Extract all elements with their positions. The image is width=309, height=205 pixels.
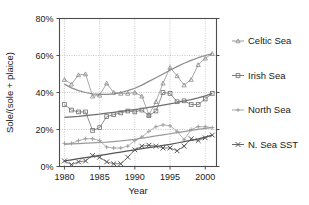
x-tick-label: 2000 (195, 172, 215, 182)
chart-canvas: 0%20%40%60%80%19801985199019952000YearSo… (0, 0, 309, 205)
y-tick-label: 20% (35, 125, 53, 135)
data-point-marker (69, 141, 73, 145)
y-tick-label: 0% (40, 162, 53, 172)
x-tick-label: 1980 (54, 172, 74, 182)
legend-plus-icon (236, 108, 240, 112)
legend-item-celtic-sea[interactable]: Celtic Sea (232, 35, 292, 46)
data-point-marker (76, 139, 80, 143)
legend-item-n-sea-sst[interactable]: N. Sea SST (232, 139, 298, 150)
data-line (64, 93, 212, 131)
y-axis-title: Sole/(sole + plaice) (4, 52, 15, 133)
legend-label: Celtic Sea (248, 35, 292, 46)
chart-figure: 0%20%40%60%80%19801985199019952000YearSo… (0, 0, 309, 205)
data-line (64, 54, 212, 115)
data-point-marker (196, 125, 200, 129)
legend-label: N. Sea SST (248, 139, 298, 150)
x-tick-labels: 19801985199019952000 (54, 172, 215, 182)
series-n-sea-sst (62, 133, 215, 167)
data-point-marker (112, 146, 116, 150)
data-point-marker (83, 137, 87, 141)
plot-frame (60, 19, 217, 167)
legend-item-irish-sea[interactable]: Irish Sea (232, 70, 286, 81)
data-point-marker (90, 137, 94, 141)
gridlines (60, 19, 217, 167)
x-tick-label: 1995 (160, 172, 180, 182)
y-tick-label: 60% (35, 51, 53, 61)
data-line (64, 125, 212, 148)
data-point-marker (182, 144, 187, 149)
data-point-marker (210, 126, 214, 130)
legend-label: North Sea (248, 104, 291, 115)
data-point-marker (119, 146, 123, 150)
data-point-marker (104, 159, 109, 164)
data-point-marker (125, 155, 130, 160)
x-tick-label: 1985 (90, 172, 110, 182)
legend-label: Irish Sea (248, 70, 286, 81)
y-tick-labels: 0%20%40%60%80% (35, 14, 53, 172)
x-axis-title: Year (128, 185, 147, 196)
trend-line (64, 128, 212, 145)
x-tick-label: 1990 (125, 172, 145, 182)
data-point-marker (154, 125, 158, 129)
data-point-marker (175, 148, 180, 153)
data-point-marker (161, 123, 165, 127)
data-point-marker (210, 52, 214, 56)
y-tick-label: 80% (35, 14, 53, 24)
legend-item-north-sea[interactable]: North Sea (232, 104, 291, 115)
series-irish-sea (63, 91, 215, 133)
y-tick-label: 40% (35, 88, 53, 98)
legend: Celtic SeaIrish SeaNorth SeaN. Sea SST (232, 35, 298, 149)
series-north-sea (62, 123, 214, 150)
